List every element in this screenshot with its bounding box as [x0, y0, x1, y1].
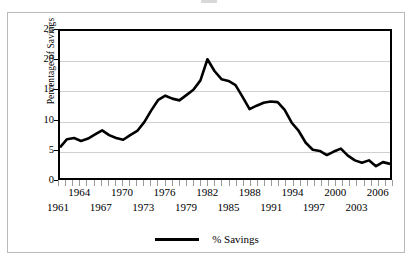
x-axis-tick-label: 1985	[209, 201, 249, 214]
cropped-title-artifact	[201, 0, 217, 3]
x-axis-tick-label: 1994	[273, 186, 313, 199]
legend-label-savings: % Savings	[212, 233, 259, 245]
x-axis-tick-label: 2006	[358, 186, 398, 199]
x-axis-tick-label: 1967	[81, 201, 121, 214]
series-polyline-savings	[60, 59, 390, 166]
plot-inner	[60, 31, 390, 178]
series-line-savings	[60, 31, 390, 178]
x-axis-tick-label: 1991	[251, 201, 291, 214]
x-axis-tick-label: 1973	[123, 201, 163, 214]
x-axis-tick-label: 2003	[336, 201, 376, 214]
y-axis-tick-labels: 0510152025	[30, 29, 54, 180]
legend-line-swatch	[155, 238, 199, 241]
chart-legend: % Savings	[0, 230, 414, 248]
x-axis-tick-labels: 1964197019761982198819942000200619611967…	[0, 186, 414, 220]
chart-figure: Percentage of Savings 0510152025 1964197…	[0, 0, 414, 261]
y-axis-tick-label: 5	[32, 144, 54, 155]
x-axis-tick-label: 1979	[166, 201, 206, 214]
y-axis-tick-label: 0	[32, 174, 54, 185]
y-axis-tick-label: 15	[32, 83, 54, 94]
x-axis-tick-label: 2000	[315, 186, 355, 199]
x-axis-tick-label: 1964	[59, 186, 99, 199]
x-axis-tick-label: 1982	[187, 186, 227, 199]
x-axis-tick-label: 1976	[145, 186, 185, 199]
x-axis-tick-label: 1961	[38, 201, 78, 214]
y-axis-tick-label: 10	[32, 114, 54, 125]
x-axis-tick-label: 1988	[230, 186, 270, 199]
y-axis-tick-label: 20	[32, 53, 54, 64]
plot-area	[58, 29, 392, 180]
x-axis-tick-label: 1997	[294, 201, 334, 214]
x-axis-tick-label: 1970	[102, 186, 142, 199]
y-axis-tick-label: 25	[32, 23, 54, 34]
